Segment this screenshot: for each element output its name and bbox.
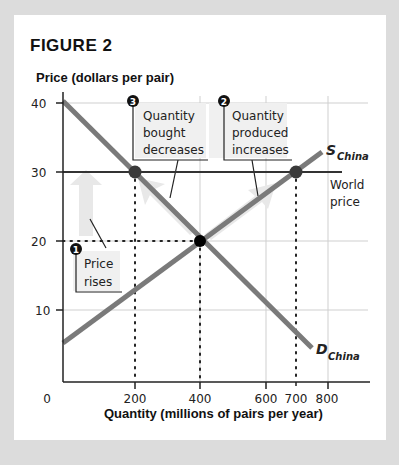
y-tick-10: 10 xyxy=(35,304,50,318)
x-tick-400: 400 xyxy=(189,392,212,406)
callout-3-line-3: decreases xyxy=(143,143,204,157)
point-quantity-produced xyxy=(290,166,303,179)
y-tick-30: 30 xyxy=(31,166,46,180)
callout-2-line-3: increases xyxy=(232,143,289,157)
y-tick-40: 40 xyxy=(31,97,46,111)
x-tick-600: 600 xyxy=(255,392,278,406)
callout-2-line-1: Quantity xyxy=(232,109,284,123)
point-quantity-bought xyxy=(129,166,142,179)
callout-2-line-2: produced xyxy=(232,126,288,140)
x-tick-700: 700 xyxy=(285,392,308,406)
demand-label: D xyxy=(316,341,328,357)
x-tick-800: 800 xyxy=(316,392,339,406)
callout-3-line-2: bought xyxy=(143,126,186,140)
chart-plot: 3 2 1 Quantity bought decreases Quantity… xyxy=(0,0,399,465)
supply-label-sub: China xyxy=(337,151,369,162)
svg-text:1: 1 xyxy=(73,245,79,255)
svg-text:2: 2 xyxy=(221,97,227,107)
x-tick-200: 200 xyxy=(124,392,147,406)
badge-1-icon: 1 xyxy=(70,243,82,255)
callout-3-line-1: Quantity xyxy=(143,109,195,123)
demand-label-sub: China xyxy=(328,351,360,362)
callout-1-line-2: rises xyxy=(84,275,112,289)
world-price-label-2: price xyxy=(330,195,360,209)
supply-label: S xyxy=(326,142,336,158)
badge-3-icon: 3 xyxy=(127,95,139,107)
supply-curve xyxy=(63,152,322,343)
x-tick-0: 0 xyxy=(43,392,51,406)
badge-2-icon: 2 xyxy=(218,95,230,107)
callout-1-line-1: Price xyxy=(84,257,113,271)
svg-text:3: 3 xyxy=(130,97,136,107)
price-rise-arrow xyxy=(70,170,102,236)
y-tick-20: 20 xyxy=(31,235,46,249)
point-equilibrium xyxy=(194,235,206,247)
world-price-label-1: World xyxy=(330,178,364,192)
